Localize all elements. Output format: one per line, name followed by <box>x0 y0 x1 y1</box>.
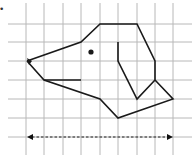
left-arrowhead-icon <box>27 134 33 140</box>
grid-lines <box>8 3 192 155</box>
right-arrowhead-icon <box>167 134 173 140</box>
dog-grid-diagram <box>0 0 192 160</box>
eye-dot <box>88 49 93 54</box>
